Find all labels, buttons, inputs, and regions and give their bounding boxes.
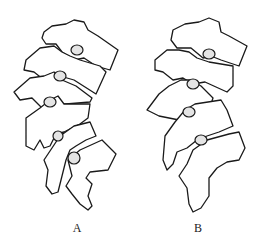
figure-b: B <box>129 0 259 244</box>
vertebrae-drawing-b <box>129 0 259 244</box>
vertebrae-drawing-a <box>0 0 130 244</box>
figure-label-a: A <box>67 221 87 236</box>
figure-a: A <box>0 0 130 244</box>
figure-label-b: B <box>188 221 208 236</box>
